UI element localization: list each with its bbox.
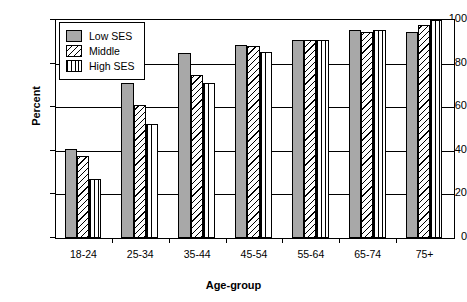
legend-label: Low SES [89, 30, 132, 42]
bar [121, 83, 133, 238]
x-axis-tick-label: 55-64 [297, 248, 324, 260]
legend-label: Middle [89, 45, 120, 57]
bar [247, 46, 259, 238]
legend-swatch-icon [66, 30, 82, 42]
x-axis-tick-label: 18-24 [70, 248, 97, 260]
bar [235, 45, 247, 238]
bar [430, 20, 442, 238]
bar [349, 30, 361, 238]
x-axis-tick-label: 25-34 [127, 248, 154, 260]
bar-chart: Percent Age-group 020406080100 18-2425-3… [0, 0, 467, 302]
legend-swatch-icon [66, 45, 82, 57]
bar [89, 179, 101, 238]
bar [178, 53, 190, 238]
legend-item: Low SES [66, 29, 135, 43]
legend: Low SESMiddleHigh SES [59, 22, 145, 80]
bar [146, 124, 158, 238]
bar [373, 30, 385, 238]
bar [260, 52, 272, 238]
bar [316, 40, 328, 238]
x-axis-tick-label: 35-44 [184, 248, 211, 260]
bar [191, 75, 203, 239]
legend-item: Middle [66, 44, 135, 58]
x-axis-title: Age-group [0, 279, 467, 291]
legend-label: High SES [89, 60, 135, 72]
bar [361, 32, 373, 238]
bar [134, 105, 146, 238]
x-axis-tick-label: 65-74 [354, 248, 381, 260]
bar [406, 32, 418, 238]
x-axis-tick-label: 75+ [416, 248, 434, 260]
bar [203, 83, 215, 238]
bar [292, 40, 304, 238]
bar [77, 156, 89, 238]
y-axis-title: Percent [30, 66, 42, 146]
legend-item: High SES [66, 59, 135, 73]
bar [304, 40, 316, 238]
x-axis-tick-label: 45-54 [241, 248, 268, 260]
bar [418, 25, 430, 238]
bar [65, 149, 77, 238]
legend-swatch-icon [66, 60, 82, 72]
